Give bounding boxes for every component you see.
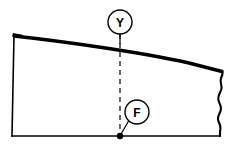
- diagram-canvas: Y F: [0, 0, 239, 151]
- datum-point-f: [117, 133, 123, 139]
- top-left-corner-nub: [14, 35, 22, 37]
- right-break-line: [218, 72, 223, 137]
- callout-y[interactable]: Y: [108, 10, 132, 44]
- part-outline: [12, 35, 223, 136]
- callout-y-label: Y: [116, 16, 124, 30]
- left-edge: [12, 35, 14, 136]
- callout-f[interactable]: F: [121, 100, 150, 135]
- top-curved-edge: [14, 36, 222, 72]
- callout-f-leader: [121, 120, 130, 135]
- callout-f-label: F: [133, 106, 140, 120]
- technical-drawing: Y F: [0, 0, 239, 151]
